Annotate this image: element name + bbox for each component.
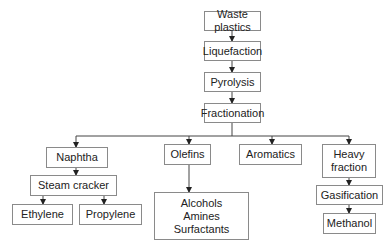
node-label: Waste plastics [205,8,260,34]
node-fractionation: Fractionation [204,103,261,123]
node-label: Liquefaction [203,45,262,58]
node-label-line: Alcohols [181,197,223,210]
node-label: Olefins [170,148,204,161]
node-label: Pyrolysis [210,76,254,89]
node-label: Fractionation [201,107,265,120]
node-olefins: Olefins [164,144,211,165]
node-aromatics: Aromatics [239,144,302,165]
node-waste-plastics: Waste plastics [204,11,261,31]
node-olefin-products: Alcohols Amines Surfactants [154,192,249,240]
node-label: Steam cracker [38,179,109,192]
node-naphtha: Naphtha [46,147,108,168]
node-ethylene: Ethylene [12,204,73,225]
node-label-line: Amines [183,210,220,223]
node-label-line: Heavy [333,148,364,161]
node-label-line: fraction [331,161,367,174]
node-label: Naphtha [56,151,98,164]
node-gasification: Gasification [316,185,383,205]
node-label: Aromatics [246,148,295,161]
node-propylene: Propylene [79,204,142,225]
node-heavy-fraction: Heavy fraction [322,144,376,178]
node-label: Gasification [321,189,378,202]
node-liquefaction: Liquefaction [204,41,261,61]
node-pyrolysis: Pyrolysis [204,72,261,92]
node-steam-cracker: Steam cracker [30,175,117,196]
node-methanol: Methanol [323,213,376,234]
node-label-line: Surfactants [174,223,230,236]
node-label: Ethylene [21,208,64,221]
node-label: Methanol [327,217,372,230]
node-label: Propylene [86,208,136,221]
